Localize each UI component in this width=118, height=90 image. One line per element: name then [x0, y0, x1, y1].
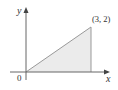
chart: y x 0 (3, 2)	[0, 0, 118, 90]
x-axis-label: x	[105, 73, 111, 84]
y-axis-arrow	[24, 7, 29, 13]
point-annotation: (3, 2)	[92, 14, 111, 24]
origin-label: 0	[17, 73, 22, 83]
y-axis-label: y	[16, 5, 22, 16]
